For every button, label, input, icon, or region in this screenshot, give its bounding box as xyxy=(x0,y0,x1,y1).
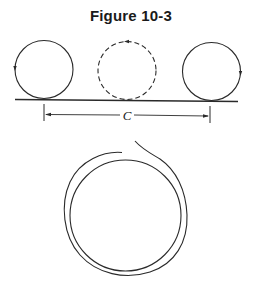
wire-coil xyxy=(64,141,187,275)
figure-diagram: C xyxy=(0,0,253,282)
arrow-down-icon xyxy=(13,66,16,71)
dimension-label: C xyxy=(123,108,132,123)
arrowhead-left-icon xyxy=(45,113,51,117)
dimension-line-left xyxy=(46,115,120,116)
coil-outer-strand xyxy=(64,141,187,275)
dimension-line-right xyxy=(134,115,208,116)
arrowhead-right-icon xyxy=(203,114,209,118)
circle-end xyxy=(183,43,241,101)
arrow-left-icon xyxy=(124,40,129,43)
arrow-down-icon xyxy=(239,71,242,76)
circle-rolling-dashed xyxy=(98,42,156,100)
circle-start xyxy=(15,41,73,99)
coil-inner-loop xyxy=(70,160,181,271)
